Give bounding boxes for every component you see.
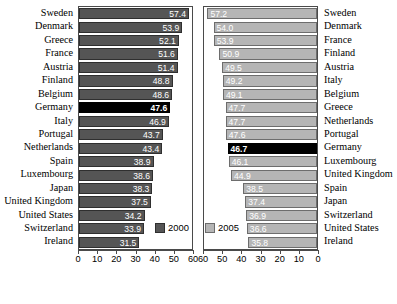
left-category-label: Austria [0,60,76,73]
bar: 37.4 [245,196,317,207]
bar-value-label: 48.6 [152,90,169,101]
bar: 38.5 [243,183,317,194]
bar-value-label: 37.4 [248,197,265,208]
right-panel-2005: 57.254.053.950.949.549.249.147.747.747.6… [203,6,318,250]
left-category-label: France [0,46,76,59]
bar: 49.2 [223,75,317,86]
legend-swatch-2000 [155,223,165,233]
bar: 43.7 [79,129,163,140]
bar-value-label: 49.1 [226,90,243,101]
bar: 57.4 [79,8,189,19]
bar-value-label: 43.7 [143,130,160,141]
bar-value-label: 34.2 [125,211,142,222]
axis-tick-label: 40 [150,254,160,264]
bar-value-label: 54.0 [217,23,234,34]
bar: 50.9 [219,48,317,59]
bar: 35.8 [248,237,317,248]
right-category-label: United Kingdom [321,167,397,180]
bar: 49.5 [222,62,317,73]
left-category-label: Italy [0,114,76,127]
bar: 38.6 [79,170,153,181]
axis-tick-label: 30 [130,254,140,264]
right-category-label: Italy [321,73,397,86]
bar: 37.5 [79,196,151,207]
bar-value-label: 53.9 [217,36,234,47]
right-x-axis: 6050403020100 [203,250,318,266]
bar-value-label: 51.4 [158,63,175,74]
bar-value-label: 48.8 [153,76,170,87]
bar: 36.6 [247,223,317,234]
axis-tick-label: 20 [275,254,285,264]
bar-value-label: 51.6 [158,49,175,60]
right-category-label: Netherlands [321,114,397,127]
legend-swatch-2005 [205,223,215,233]
left-category-labels: SwedenDenmarkGreeceFranceAustriaFinlandB… [0,6,76,248]
bar-value-label: 47.7 [229,103,246,114]
bar-value-label: 36.9 [249,211,266,222]
bar-value-label: 53.9 [163,23,180,34]
bar-value-label: 46.7 [231,144,248,155]
left-category-label: Sweden [0,6,76,19]
legend-entry-2005: 2005 [205,222,239,233]
left-category-label: Denmark [0,19,76,32]
left-category-label: Ireland [0,234,76,247]
bar: 48.8 [79,75,173,86]
bar-value-label: 38.5 [246,184,263,195]
right-category-label: Denmark [321,19,397,32]
bar-value-label: 36.6 [250,224,267,235]
bar: 38.3 [79,183,152,194]
right-category-label: France [321,33,397,46]
bar: 36.9 [246,210,317,221]
bar: 44.9 [231,170,317,181]
bar: 47.7 [226,102,317,113]
axis-tick-label: 10 [294,254,304,264]
bar-value-label: 47.6 [150,103,167,114]
left-category-label: Luxembourg [0,167,76,180]
bar: 46.9 [79,116,169,127]
bar: 46.1 [229,156,317,167]
bar: 51.4 [79,62,178,73]
bar: 53.9 [79,22,182,33]
bar: 43.4 [79,143,162,154]
bar: 47.6 [79,102,170,113]
left-panel-2000: 57.453.952.151.651.448.848.647.646.943.7… [78,6,193,250]
bar-value-label: 38.3 [133,184,150,195]
bar-value-label: 35.8 [251,238,268,249]
axis-tick-label: 40 [236,254,246,264]
axis-tick-label: 20 [111,254,121,264]
bar: 57.2 [207,8,317,19]
bar: 51.6 [79,48,178,59]
bar: 53.9 [214,35,317,46]
left-category-label: Germany [0,100,76,113]
right-category-label: Finland [321,46,397,59]
bar-value-label: 57.4 [169,9,186,20]
chart-figure: SwedenDenmarkGreeceFranceAustriaFinlandB… [0,0,397,304]
bar: 47.6 [226,129,317,140]
axis-tick-label: 50 [169,254,179,264]
left-category-label: Netherlands [0,140,76,153]
bar-value-label: 52.1 [159,36,176,47]
bar-value-label: 49.5 [225,63,242,74]
bar: 46.7 [228,143,318,154]
bar-value-label: 38.6 [133,171,150,182]
bar: 34.2 [79,210,145,221]
left-category-label: Switzerland [0,221,76,234]
bar-value-label: 31.5 [120,238,137,249]
left-plot-area: 57.453.952.151.651.448.848.647.646.943.7… [78,6,193,250]
left-category-label: Belgium [0,87,76,100]
axis-tick-label: 0 [315,254,320,264]
bar: 54.0 [214,22,318,33]
right-category-label: Belgium [321,87,397,100]
bar: 52.1 [79,35,179,46]
bar-value-label: 44.9 [234,171,251,182]
bar: 47.7 [226,116,317,127]
bar: 49.1 [223,89,317,100]
bar-value-label: 47.6 [229,130,246,141]
left-x-axis: 0102030405060 [78,250,193,266]
left-category-label: United Kingdom [0,194,76,207]
right-category-label: Ireland [321,234,397,247]
right-plot-area: 57.254.053.950.949.549.249.147.747.747.6… [203,6,318,250]
right-category-label: Luxembourg [321,154,397,167]
bar-value-label: 43.4 [142,144,159,155]
right-category-label: Greece [321,100,397,113]
